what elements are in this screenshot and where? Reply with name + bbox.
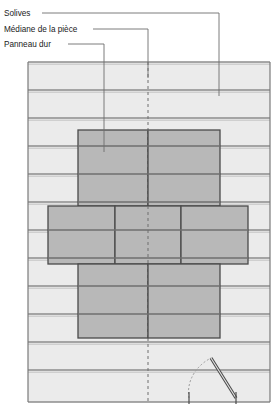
joist-band <box>28 62 270 90</box>
hardboard-panel <box>148 264 220 338</box>
hardboard-panels-group <box>48 130 248 338</box>
panel-row <box>78 264 220 338</box>
joist-band <box>28 90 270 118</box>
annotation-label-mediane: Médiane de la pièce <box>4 25 78 34</box>
hardboard-panel <box>78 130 148 206</box>
hardboard-panel <box>48 206 115 264</box>
panel-row <box>78 130 220 206</box>
joist-band <box>28 342 270 370</box>
floor-plan-drawing: SolivesMédiane de la piècePanneau dur <box>0 0 278 412</box>
labels-group: SolivesMédiane de la piècePanneau dur <box>4 9 78 49</box>
diagram-canvas: SolivesMédiane de la piècePanneau dur <box>0 0 278 412</box>
annotation-label-solives: Solives <box>4 9 30 18</box>
hardboard-panel <box>148 130 220 206</box>
hardboard-panel <box>78 264 148 338</box>
hardboard-panel <box>181 206 248 264</box>
annotation-label-panneau-dur: Panneau dur <box>4 40 51 49</box>
